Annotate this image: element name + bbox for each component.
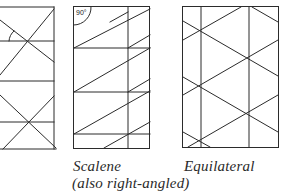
scalene-caption: Scalene [73,158,121,174]
angle-arc-icon [9,31,14,41]
scalene-subcaption: (also right-angled) [72,175,190,191]
scalene-panel [74,7,151,149]
isosceles-panel [0,7,56,149]
equilateral-panel [183,7,279,148]
angle-label-90: 90° [76,9,87,16]
equilateral-caption: Equilateral [184,158,255,174]
